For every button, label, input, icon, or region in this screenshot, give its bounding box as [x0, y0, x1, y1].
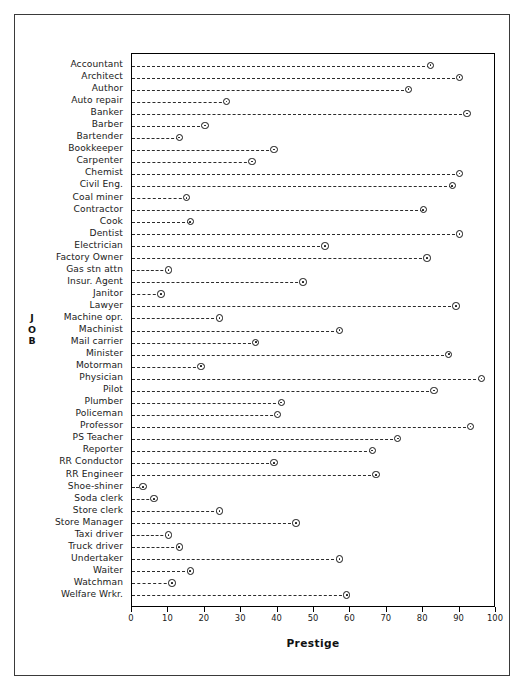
- data-row: [132, 529, 494, 542]
- data-point-marker[interactable]: [197, 363, 204, 370]
- data-point-marker[interactable]: [445, 351, 452, 358]
- data-row: [132, 72, 494, 85]
- leader-line: [132, 270, 168, 271]
- data-point-marker[interactable]: [405, 86, 412, 93]
- data-row: [132, 288, 494, 301]
- data-point-marker[interactable]: [394, 435, 401, 442]
- data-point-marker[interactable]: [427, 62, 434, 69]
- data-point-marker[interactable]: [248, 158, 255, 165]
- y-axis-label: Motorman: [76, 362, 123, 371]
- data-point-marker[interactable]: [150, 495, 157, 502]
- data-point-marker[interactable]: [187, 218, 194, 225]
- data-point-marker[interactable]: [216, 314, 223, 321]
- data-point-marker[interactable]: [369, 447, 376, 454]
- data-row: [132, 577, 494, 590]
- data-point-marker[interactable]: [321, 242, 328, 249]
- x-tick-label: 0: [128, 614, 133, 623]
- x-tick-label: 40: [271, 614, 282, 623]
- y-axis-label: Factory Owner: [56, 253, 123, 262]
- y-axis-label: Welfare Wrkr.: [61, 590, 123, 599]
- data-point-marker[interactable]: [420, 206, 427, 213]
- data-point-marker[interactable]: [201, 122, 208, 129]
- data-point-marker[interactable]: [292, 519, 299, 526]
- x-tick-mark: [459, 607, 460, 612]
- data-point-marker[interactable]: [430, 387, 437, 394]
- data-row: [132, 493, 494, 506]
- data-point-marker[interactable]: [463, 110, 470, 117]
- data-point-marker[interactable]: [187, 567, 194, 574]
- y-axis-label: RR Engineer: [66, 470, 123, 479]
- data-point-marker[interactable]: [223, 98, 230, 105]
- y-axis-label: Machine opr.: [64, 313, 123, 322]
- leader-line: [132, 547, 179, 548]
- leader-line: [132, 595, 347, 596]
- data-row: [132, 385, 494, 398]
- data-point-marker[interactable]: [452, 302, 459, 309]
- y-axis-label: Undertaker: [71, 554, 123, 563]
- data-point-marker[interactable]: [343, 591, 350, 598]
- data-point-marker[interactable]: [372, 471, 379, 478]
- leader-line: [132, 174, 460, 175]
- x-tick-label: 30: [235, 614, 246, 623]
- data-point-marker[interactable]: [336, 555, 343, 562]
- x-tick-mark: [495, 607, 496, 612]
- data-point-marker[interactable]: [456, 230, 463, 237]
- leader-line: [132, 138, 179, 139]
- data-point-marker[interactable]: [183, 194, 190, 201]
- leader-line: [132, 523, 296, 524]
- y-axis-label: Accountant: [70, 60, 123, 69]
- y-axis-label: Shoe-shiner: [68, 482, 123, 491]
- y-axis-label: Minister: [86, 349, 123, 358]
- leader-line: [132, 246, 325, 247]
- data-row: [132, 108, 494, 121]
- data-point-marker[interactable]: [336, 327, 343, 334]
- y-axis-label: Auto repair: [71, 97, 123, 106]
- y-axis-label: Watchman: [74, 578, 123, 587]
- x-tick-label: 90: [453, 614, 464, 623]
- data-point-marker[interactable]: [274, 411, 281, 418]
- data-row: [132, 349, 494, 362]
- data-row: [132, 505, 494, 518]
- x-tick-label: 10: [162, 614, 173, 623]
- data-point-marker[interactable]: [176, 134, 183, 141]
- data-row: [132, 409, 494, 422]
- x-tick-label: 50: [308, 614, 319, 623]
- leader-line: [132, 114, 467, 115]
- leader-line: [132, 415, 278, 416]
- data-point-marker[interactable]: [270, 146, 277, 153]
- data-row: [132, 168, 494, 181]
- data-point-marker[interactable]: [456, 74, 463, 81]
- leader-line: [132, 355, 449, 356]
- leader-line: [132, 282, 303, 283]
- data-point-marker[interactable]: [449, 182, 456, 189]
- data-point-marker[interactable]: [165, 266, 172, 273]
- data-point-marker[interactable]: [176, 543, 183, 550]
- plot-area: [131, 53, 495, 607]
- data-point-marker[interactable]: [299, 278, 306, 285]
- data-row: [132, 469, 494, 482]
- data-point-marker[interactable]: [456, 170, 463, 177]
- data-point-marker[interactable]: [252, 339, 259, 346]
- data-point-marker[interactable]: [139, 483, 146, 490]
- data-point-marker[interactable]: [478, 375, 485, 382]
- data-point-marker[interactable]: [270, 459, 277, 466]
- leader-line: [132, 463, 274, 464]
- data-point-marker[interactable]: [423, 254, 430, 261]
- leader-line: [132, 427, 471, 428]
- x-tick-label: 80: [417, 614, 428, 623]
- leader-line: [132, 475, 376, 476]
- data-point-marker[interactable]: [157, 290, 164, 297]
- data-row: [132, 517, 494, 530]
- y-axis-label: Plumber: [85, 398, 123, 407]
- data-point-marker[interactable]: [168, 579, 175, 586]
- leader-line: [132, 439, 398, 440]
- y-axis-category-labels: AccountantArchitectAuthorAuto repairBank…: [0, 53, 127, 607]
- data-point-marker[interactable]: [216, 507, 223, 514]
- data-point-marker[interactable]: [278, 399, 285, 406]
- leader-line: [132, 367, 201, 368]
- x-tick-label: 60: [344, 614, 355, 623]
- leader-line: [132, 559, 339, 560]
- data-point-marker[interactable]: [467, 423, 474, 430]
- y-axis-label: Reporter: [83, 446, 123, 455]
- data-point-marker[interactable]: [165, 531, 172, 538]
